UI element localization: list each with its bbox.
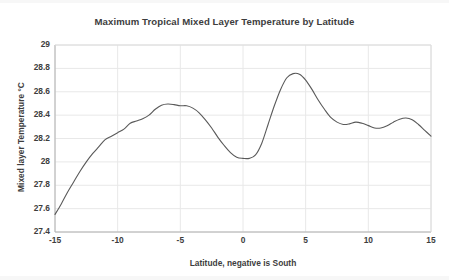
grid-lines — [55, 45, 431, 232]
plot-area — [0, 0, 449, 280]
x-axis-title: Latitude, negative is South — [55, 258, 431, 268]
chart-figure: Maximum Tropical Mixed Layer Temperature… — [0, 0, 449, 280]
